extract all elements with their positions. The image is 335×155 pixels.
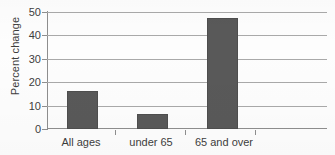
- x-tick-mark-2: [185, 130, 186, 135]
- bar-under-65: [137, 114, 168, 129]
- y-axis-tick-labels: 50 40 30 20 10 0: [13, 0, 41, 155]
- bar-chart: Percent change 50 40 30 20 10 0 All ages…: [0, 0, 335, 155]
- x-label-under-65: under 65: [117, 136, 185, 149]
- x-label-all-ages: All ages: [47, 136, 115, 149]
- y-tick-label-0: 0: [15, 124, 41, 135]
- y-tick-label-40: 40: [15, 30, 41, 41]
- gridline-40: [47, 35, 327, 36]
- y-tick-label-30: 30: [15, 54, 41, 65]
- plot-area: [47, 12, 327, 129]
- y-tick-label-10: 10: [15, 101, 41, 112]
- y-tick-mark-0: [42, 129, 47, 130]
- gridline-50: [47, 12, 327, 13]
- x-tick-mark-3: [255, 130, 256, 135]
- x-label-65-and-over: 65 and over: [187, 136, 261, 149]
- x-tick-mark-1: [115, 130, 116, 135]
- y-tick-label-20: 20: [15, 77, 41, 88]
- gridline-30: [47, 59, 327, 60]
- gridline-20: [47, 82, 327, 83]
- bar-65-and-over: [207, 18, 238, 129]
- bar-all-ages: [67, 91, 98, 129]
- y-tick-label-50: 50: [15, 7, 41, 18]
